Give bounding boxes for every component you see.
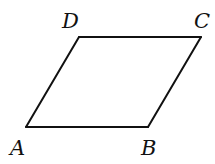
parallelogram-diagram: A B C D bbox=[0, 0, 215, 164]
edge-da bbox=[26, 37, 79, 127]
vertex-label-c: C bbox=[194, 9, 210, 33]
vertex-label-b: B bbox=[140, 136, 156, 160]
vertex-label-a: A bbox=[8, 136, 25, 160]
edge-bc bbox=[148, 37, 201, 127]
vertex-label-d: D bbox=[61, 9, 79, 33]
